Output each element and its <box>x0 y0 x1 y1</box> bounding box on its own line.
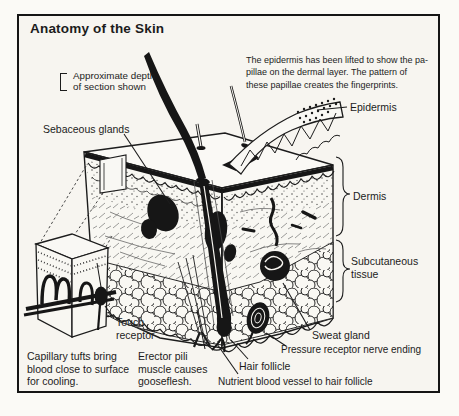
depth-bracket-icon <box>60 73 67 91</box>
label-hair-follicle: Hair follicle <box>239 360 290 373</box>
label-nutrient-vessel: Nutrient blood vessel to hair follicle <box>218 376 373 389</box>
subcutaneous-bracket <box>336 240 350 302</box>
label-approximate-depth: Approximate depth of section shown <box>73 71 155 93</box>
label-dermis: Dermis <box>353 190 386 203</box>
intro-caption: The epidermis has been lifted to show th… <box>246 54 446 91</box>
figure-title: Anatomy of the Skin <box>30 21 164 36</box>
label-erector-pili: Erector pili muscle causes gooseflesh. <box>138 350 207 388</box>
dermis-bracket <box>336 157 350 236</box>
book-figure-page: { "figure": { "title": "Anatomy of the S… <box>0 0 459 416</box>
label-sweat-gland: Sweat gland <box>312 329 370 342</box>
label-capillary-tufts: Capillary tufts bring blood close to sur… <box>27 350 129 388</box>
label-sebaceous-glands: Sebaceous glands <box>43 123 129 136</box>
label-pressure-receptor: Pressure receptor nerve ending <box>281 344 421 357</box>
label-epidermis: Epidermis <box>350 101 397 114</box>
label-touch-receptor: Touch receptor <box>116 316 155 341</box>
label-subcutaneous-tissue: Subcutaneous tissue <box>351 255 418 280</box>
section-depth-notch <box>100 155 126 193</box>
